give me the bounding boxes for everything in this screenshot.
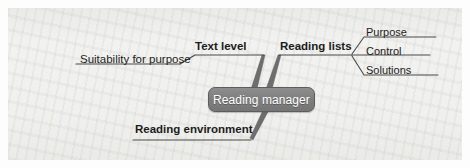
- branch-wedge-text-level: [251, 55, 265, 89]
- branch-line-text-level: [180, 55, 264, 64]
- node-label-reading-environment[interactable]: Reading environment: [135, 124, 253, 136]
- node-label-purpose[interactable]: Purpose: [366, 27, 407, 38]
- node-label-suitability-for-purpose[interactable]: Suitability for purpose: [80, 54, 191, 66]
- node-label-text-level[interactable]: Text level: [195, 41, 247, 53]
- central-topic-node[interactable]: Reading manager: [208, 87, 315, 112]
- node-label-solutions[interactable]: Solutions: [366, 65, 411, 76]
- mind-map-diagram: Reading manager Suitability for purpose …: [0, 0, 470, 168]
- central-topic-label: Reading manager: [213, 93, 310, 107]
- node-label-reading-lists[interactable]: Reading lists: [280, 41, 352, 53]
- branch-wedge-reading-lists: [266, 55, 281, 89]
- node-label-control[interactable]: Control: [366, 46, 401, 57]
